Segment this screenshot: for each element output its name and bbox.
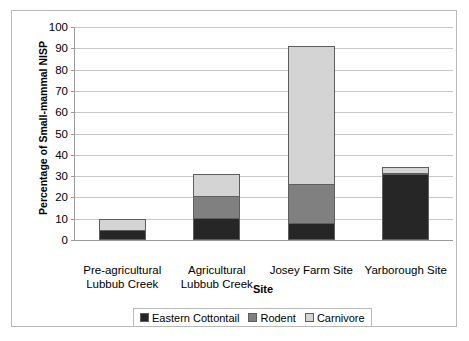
y-tick-label: 50 [28, 128, 68, 140]
y-tick-mark-50 [71, 134, 75, 135]
y-tick-label: 90 [28, 42, 68, 54]
legend-item[interactable]: Eastern Cottontail [140, 312, 239, 324]
bar-segment[interactable] [288, 46, 335, 184]
y-tick-mark-0 [71, 240, 75, 241]
bar-group[interactable] [99, 219, 146, 240]
legend-swatch-icon [305, 313, 314, 322]
y-tick-label: 10 [28, 213, 68, 225]
legend-item[interactable]: Rodent [248, 312, 295, 324]
legend-swatch-icon [140, 313, 149, 322]
gridline-60 [75, 112, 453, 113]
legend-label: Rodent [260, 312, 295, 324]
y-tick-label: 70 [28, 85, 68, 97]
y-tick-label: 20 [28, 191, 68, 203]
bar-stack[interactable] [99, 219, 146, 240]
bar-segment[interactable] [288, 184, 335, 224]
bar-segment[interactable] [193, 218, 240, 240]
gridline-80 [75, 70, 453, 71]
y-tick-mark-90 [71, 48, 75, 49]
gridline-90 [75, 48, 453, 49]
x-category-label: Yarborough Site [346, 263, 466, 277]
y-tick-label: 0 [28, 234, 68, 246]
y-tick-mark-10 [71, 219, 75, 220]
bar-group[interactable] [382, 167, 429, 240]
bar-stack[interactable] [288, 46, 335, 240]
y-tick-label: 60 [28, 106, 68, 118]
y-tick-label: 100 [28, 21, 68, 33]
chart-legend: Eastern CottontailRodentCarnivore [133, 308, 372, 327]
y-tick-mark-20 [71, 197, 75, 198]
legend-swatch-icon [248, 313, 257, 322]
gridline-0 [75, 240, 453, 241]
y-tick-mark-30 [71, 176, 75, 177]
y-tick-mark-70 [71, 91, 75, 92]
y-tick-label: 30 [28, 170, 68, 182]
bar-segment[interactable] [193, 196, 240, 218]
y-tick-mark-100 [71, 27, 75, 28]
y-tick-label: 40 [28, 149, 68, 161]
bar-group[interactable] [288, 46, 335, 240]
y-tick-label: 80 [28, 64, 68, 76]
gridline-40 [75, 155, 453, 156]
legend-label: Carnivore [317, 312, 365, 324]
x-category-label-line: Yarborough Site [346, 263, 466, 277]
chart-frame: Percentage of Small-mammal NISP 01020304… [11, 10, 457, 327]
bar-segment[interactable] [382, 174, 429, 240]
plot-area: 0102030405060708090100Pre-agriculturalLu… [74, 27, 453, 241]
gridline-50 [75, 134, 453, 135]
bar-stack[interactable] [382, 167, 429, 240]
bar-segment[interactable] [193, 174, 240, 197]
legend-item[interactable]: Carnivore [305, 312, 365, 324]
bar-group[interactable] [193, 174, 240, 240]
y-tick-mark-60 [71, 112, 75, 113]
bar-segment[interactable] [288, 223, 335, 240]
bar-segment[interactable] [99, 230, 146, 240]
y-tick-mark-80 [71, 70, 75, 71]
gridline-100 [75, 27, 453, 28]
bar-stack[interactable] [193, 174, 240, 240]
legend-label: Eastern Cottontail [152, 312, 239, 324]
gridline-70 [75, 91, 453, 92]
y-tick-mark-40 [71, 155, 75, 156]
x-axis-title: Site [74, 283, 452, 295]
